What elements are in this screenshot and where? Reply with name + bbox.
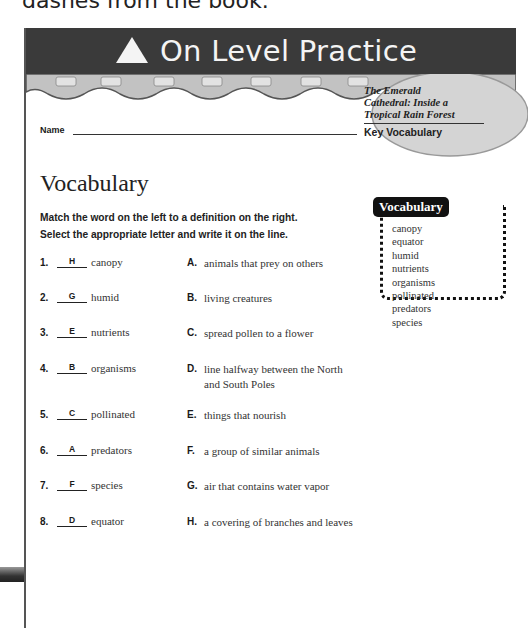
item-number: 5. xyxy=(40,409,48,420)
item-word: pollinated xyxy=(91,408,135,420)
vocab-word: canopy xyxy=(392,222,435,235)
item-word: species xyxy=(91,479,123,491)
vocab-word: species xyxy=(392,316,435,329)
item-number: 1. xyxy=(40,257,48,268)
item-number: 6. xyxy=(40,445,48,456)
definition-text: living creatures xyxy=(204,291,364,306)
badge-rule xyxy=(364,123,484,124)
top-caption: dashes from the book. xyxy=(22,0,269,13)
item-word: humid xyxy=(91,291,119,303)
vocab-word: equator xyxy=(392,235,435,248)
name-row: Name xyxy=(40,124,357,135)
vocabulary-word-list: canopy equator humid nutrients organisms… xyxy=(392,222,435,329)
definition-letter: C. xyxy=(187,327,197,338)
definition-letter: A. xyxy=(187,257,197,268)
book-title-line1: The Emerald xyxy=(364,85,484,97)
answer-blank[interactable]: D xyxy=(57,515,87,527)
answer-blank[interactable]: G xyxy=(57,291,87,303)
answer-blank[interactable]: C xyxy=(57,408,87,420)
side-tab xyxy=(0,567,25,582)
badge-subtitle: Key Vocabulary xyxy=(364,126,484,138)
triangle-icon xyxy=(116,37,148,63)
definition-text: animals that prey on others xyxy=(204,256,364,271)
definition-letter: B. xyxy=(187,292,197,303)
definition-letter: F. xyxy=(187,445,195,456)
badge-text: The Emerald Cathedral: Inside a Tropical… xyxy=(364,85,484,138)
definition-text: a covering of branches and leaves xyxy=(204,515,404,530)
item-number: 4. xyxy=(40,363,48,374)
answer-blank[interactable]: B xyxy=(57,362,87,374)
item-number: 2. xyxy=(40,292,48,303)
definition-letter: G. xyxy=(187,480,198,491)
name-input-line[interactable] xyxy=(73,124,357,135)
vocabulary-box-title: Vocabulary xyxy=(373,197,449,217)
definition-letter: H. xyxy=(187,516,197,527)
header-title-text: On Level Practice xyxy=(160,34,417,68)
definition-text: a group of similar animals xyxy=(204,444,364,459)
definition-letter: E. xyxy=(187,409,196,420)
instructions-line2: Select the appropriate letter and write … xyxy=(40,226,298,243)
instructions-line1: Match the word on the left to a definiti… xyxy=(40,209,298,226)
header-title: On Level Practice xyxy=(26,28,507,74)
vocab-word: humid xyxy=(392,249,435,262)
vocab-word: predators xyxy=(392,302,435,315)
name-label: Name xyxy=(40,125,65,135)
item-number: 8. xyxy=(40,516,48,527)
definition-text: spread pollen to a flower xyxy=(204,326,364,341)
instructions: Match the word on the left to a definiti… xyxy=(40,209,298,243)
definition-letter: D. xyxy=(187,363,197,374)
section-title: Vocabulary xyxy=(40,170,149,197)
answer-blank[interactable]: E xyxy=(57,326,87,338)
definition-text: line halfway between the North and South… xyxy=(204,362,344,392)
vocab-word: nutrients xyxy=(392,262,435,275)
definition-text: air that contains water vapor xyxy=(204,479,384,494)
item-word: canopy xyxy=(91,256,123,268)
item-word: organisms xyxy=(91,362,136,374)
definition-text: things that nourish xyxy=(204,408,364,423)
answer-blank[interactable]: F xyxy=(57,479,87,491)
book-title-line3: Tropical Rain Forest xyxy=(364,109,484,121)
vocab-word: organisms xyxy=(392,276,435,289)
answer-blank[interactable]: A xyxy=(57,444,87,456)
book-title-line2: Cathedral: Inside a xyxy=(364,97,484,109)
item-number: 3. xyxy=(40,327,48,338)
answer-blank[interactable]: H xyxy=(57,256,87,268)
vocab-word: pollinated xyxy=(392,289,435,302)
item-word: nutrients xyxy=(91,326,130,338)
item-number: 7. xyxy=(40,480,48,491)
item-word: equator xyxy=(91,515,124,527)
item-word: predators xyxy=(91,444,132,456)
